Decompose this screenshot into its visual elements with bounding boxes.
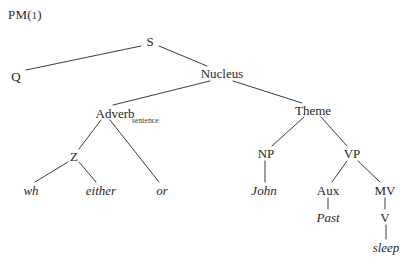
tree-node-Q: Q [11,70,20,83]
tree-node-MV: MV [375,184,396,197]
tree-edge-Adverb-to-Z [79,120,101,149]
tree-node-or: or [156,184,168,197]
tree-node-S: S [146,35,153,48]
tree-node-Aux: Aux [317,184,339,197]
tree-node-Past: Past [316,211,339,224]
tree-edge-S-to-Q [26,46,141,70]
tree-edge-Adverb-to-or [110,120,159,182]
tree-edge-Nucleus-to-Theme [233,81,302,103]
tree-node-Nucleus: Nucleus [201,67,244,80]
tree-edge-VP-to-MV [358,161,380,182]
tree-edges-canvas [0,0,414,271]
tree-node-Theme: Theme [295,104,331,117]
tree-node-NP: NP [258,147,275,160]
tree-edge-S-to-Nucleus [159,46,207,66]
tree-node-Z: Z [70,150,78,163]
tree-edge-Theme-to-VP [321,117,347,146]
tree-node-VP: VP [344,147,361,160]
tree-node-V: V [380,211,389,224]
tree-edge-Z-to-wh [35,162,68,182]
tree-node-sleep: sleep [373,241,400,254]
tree-node-wh: wh [23,184,38,197]
tree-node-Adverb: Adverb [96,107,135,120]
phrase-structure-figure: PM(1) SQNucleusAdverbsentenceThemeZorwhe… [0,0,414,271]
tree-edge-Theme-to-NP [272,117,304,146]
tree-node-either: either [86,184,116,197]
tree-node-John: John [251,184,276,197]
tree-edge-Nucleus-to-Adverb [113,81,210,105]
tree-edge-Z-to-either [79,162,96,182]
tree-node-Adverb-subscript: sentence [132,116,159,125]
tree-edge-VP-to-Aux [332,161,347,182]
